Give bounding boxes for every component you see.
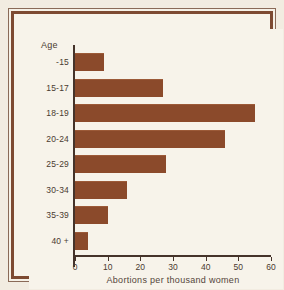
category-label: 30-34 xyxy=(29,185,69,195)
bar-row: 18-19 xyxy=(29,102,283,126)
bar xyxy=(75,181,127,199)
bar xyxy=(75,155,166,173)
bar xyxy=(75,79,163,97)
x-tick-label: 40 xyxy=(194,262,218,272)
category-label: 35-39 xyxy=(29,210,69,220)
bar xyxy=(75,53,104,71)
category-label: 15-17 xyxy=(29,83,69,93)
category-label: 20-24 xyxy=(29,134,69,144)
bar-row: 20-24 xyxy=(29,128,283,152)
bar xyxy=(75,232,88,250)
bar xyxy=(75,130,225,148)
bar-row: 25-29 xyxy=(29,153,283,177)
x-tick-mark xyxy=(173,257,174,261)
x-tick-label: 0 xyxy=(63,262,87,272)
x-tick-mark xyxy=(108,257,109,261)
bar-row: 15-17 xyxy=(29,77,283,101)
category-label: 40 + xyxy=(29,236,69,246)
chart-inner-frame: Age -1515-1718-1920-2425-2930-3435-3940 … xyxy=(11,11,273,279)
category-label: 18-19 xyxy=(29,108,69,118)
y-axis-heading: Age xyxy=(41,40,58,50)
bar xyxy=(75,206,108,224)
x-axis-line xyxy=(73,255,271,257)
x-tick-label: 10 xyxy=(96,262,120,272)
x-tick-label: 50 xyxy=(226,262,250,272)
category-label: 25-29 xyxy=(29,159,69,169)
x-tick-mark xyxy=(238,257,239,261)
x-tick-label: 30 xyxy=(161,262,185,272)
x-tick-mark xyxy=(271,257,272,261)
bar-row: 35-39 xyxy=(29,204,283,228)
plot-area: Age -1515-1718-1920-2425-2930-3435-3940 … xyxy=(29,29,283,289)
figure-canvas: Age -1515-1718-1920-2425-2930-3435-3940 … xyxy=(0,0,284,290)
x-tick-mark xyxy=(206,257,207,261)
bar-row: 30-34 xyxy=(29,179,283,203)
category-label: -15 xyxy=(29,57,69,67)
x-tick-label: 20 xyxy=(128,262,152,272)
x-tick-mark xyxy=(140,257,141,261)
x-tick-mark xyxy=(75,257,76,261)
x-tick-label: 60 xyxy=(259,262,283,272)
bar xyxy=(75,104,255,122)
x-axis-title: Abortions per thousand women xyxy=(73,275,273,285)
bar-row: -15 xyxy=(29,51,283,75)
bar-row: 40 + xyxy=(29,230,283,254)
